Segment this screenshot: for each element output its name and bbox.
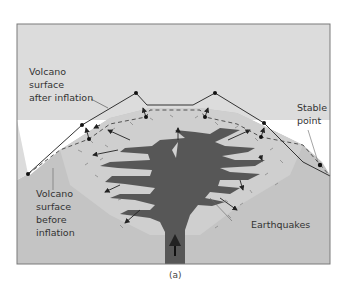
volcano-inflation-diagram: Volcano surface after inflation Volcano …: [0, 0, 351, 285]
diagram-svg: [0, 0, 351, 285]
label-stable-point: Stable point: [297, 101, 327, 127]
label-earthquakes: Earthquakes: [251, 218, 310, 231]
label-before-inflation: Volcano surface before inflation: [36, 187, 75, 239]
label-after-inflation: Volcano surface after inflation: [29, 65, 93, 104]
figure-caption: (a): [169, 270, 182, 280]
